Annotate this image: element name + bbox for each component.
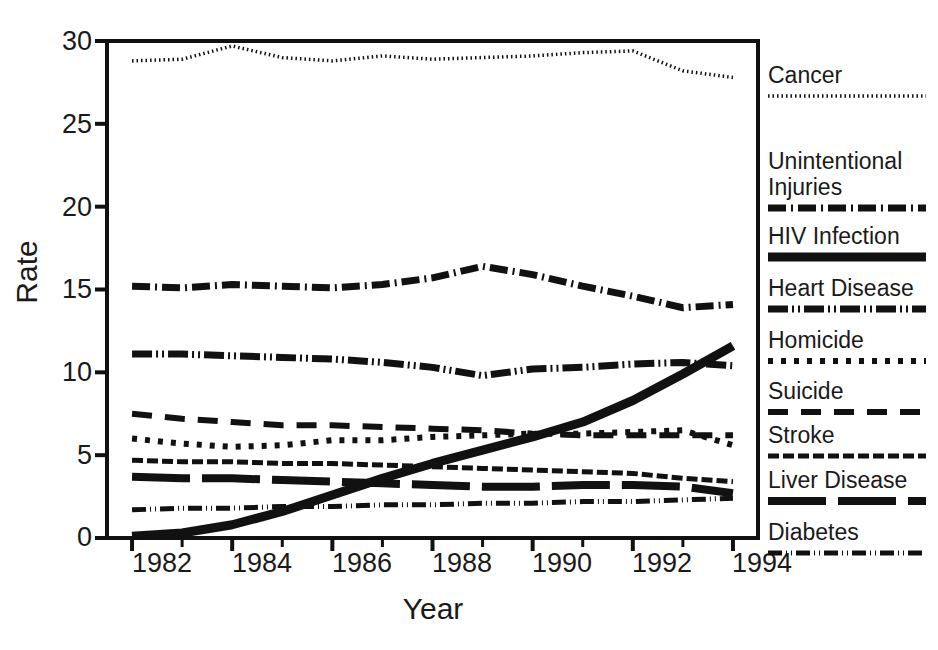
legend-label: Suicide (768, 378, 938, 404)
x-tick-label-1992: 1992 (607, 548, 717, 579)
series-line-liver-disease (132, 477, 733, 494)
series-line-unintentional-injuries (132, 266, 733, 307)
y-tick-label-0: 0 (22, 522, 92, 553)
legend-item-cancer[interactable]: Cancer (768, 62, 938, 102)
legend-label: HIV Infection (768, 223, 938, 249)
legend-line-sample (768, 495, 928, 507)
legend-line-sample (768, 355, 928, 367)
series-line-cancer (132, 46, 733, 77)
y-axis-title: Rate (10, 212, 44, 332)
legend-item-diabetes[interactable]: Diabetes (768, 519, 938, 559)
legend-label: Stroke (768, 422, 938, 448)
legend-item-hiv-infection[interactable]: HIV Infection (768, 223, 938, 263)
x-tick-label-1984: 1984 (207, 548, 317, 579)
series-line-heart-disease (132, 354, 733, 376)
legend-label-line2: Injuries (768, 174, 938, 200)
series-layer (132, 46, 733, 536)
x-axis-title: Year (378, 592, 488, 626)
legend-item-heart-disease[interactable]: Heart Disease (768, 275, 938, 315)
legend-label: Unintentional (768, 148, 938, 174)
legend-item-homicide[interactable]: Homicide (768, 327, 938, 367)
x-tick-label-1988: 1988 (407, 548, 517, 579)
chart-legend: CancerUnintentionalInjuriesHIV Infection… (768, 30, 938, 560)
legend-label: Homicide (768, 327, 938, 353)
legend-line-sample (768, 547, 928, 559)
legend-item-unintentional[interactable]: UnintentionalInjuries (768, 148, 938, 214)
legend-label: Diabetes (768, 519, 938, 545)
legend-line-sample (768, 303, 928, 315)
y-tick-label-25: 25 (22, 109, 92, 140)
legend-label: Liver Disease (768, 467, 938, 493)
legend-label: Heart Disease (768, 275, 938, 301)
legend-label: Cancer (768, 62, 938, 88)
legend-line-sample (768, 406, 928, 418)
y-tick-label-10: 10 (22, 357, 92, 388)
legend-line-sample (768, 90, 928, 102)
legend-line-sample (768, 251, 928, 263)
legend-item-suicide[interactable]: Suicide (768, 378, 938, 418)
y-tick-label-5: 5 (22, 440, 92, 471)
legend-line-sample (768, 202, 928, 214)
x-tick-label-1990: 1990 (507, 548, 617, 579)
y-tick-label-30: 30 (22, 26, 92, 57)
legend-item-liver-disease[interactable]: Liver Disease (768, 467, 938, 507)
x-tick-label-1986: 1986 (307, 548, 417, 579)
legend-item-stroke[interactable]: Stroke (768, 422, 938, 462)
series-line-homicide (132, 430, 733, 447)
x-tick-label-1982: 1982 (107, 548, 217, 579)
legend-line-sample (768, 450, 928, 462)
chart-figure: 30 25 20 15 10 5 0 1982 1984 1986 1988 1… (0, 0, 938, 650)
series-line-diabetes (132, 498, 733, 510)
